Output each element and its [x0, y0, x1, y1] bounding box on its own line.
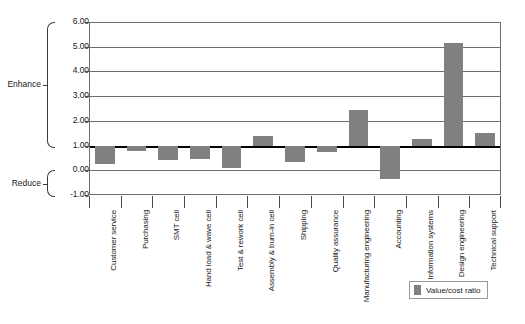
bar: [317, 146, 337, 152]
bar: [95, 146, 115, 165]
bar: [475, 133, 495, 145]
x-axis-tick-mark: [500, 196, 501, 208]
x-axis-tick-mark: [343, 196, 344, 208]
brace-label: Enhance: [0, 79, 41, 89]
x-axis-label: Purchasing: [141, 210, 150, 249]
brace-nub: [43, 85, 48, 86]
x-axis-label: Quality assurance: [331, 210, 340, 272]
axis-brace: [47, 170, 55, 197]
x-axis-label: Shipping: [299, 210, 308, 240]
x-axis-label: Information systems: [426, 210, 435, 280]
x-axis-tick-mark: [152, 196, 153, 208]
bar: [285, 146, 305, 162]
x-axis-tick-mark: [438, 196, 439, 208]
y-axis: 6.005.004.003.002.001.000.00-1.00 Enhanc…: [38, 22, 89, 195]
x-axis-tick-mark: [406, 196, 407, 208]
axis-brace: [47, 22, 55, 148]
x-axis-tick-mark: [374, 196, 375, 208]
x-axis-tick-mark: [279, 196, 280, 208]
x-axis-label: Manufacturing engineering: [362, 210, 371, 302]
x-axis-label: Test & rework cell: [236, 210, 245, 271]
bar: [253, 136, 273, 146]
bar: [222, 146, 242, 168]
x-axis-tick-mark: [89, 196, 90, 208]
bar: [412, 139, 432, 145]
x-axis-label: SMT cell: [172, 210, 181, 240]
x-axis-tick-mark: [216, 196, 217, 208]
x-axis-label: Accounting: [394, 210, 403, 249]
value-cost-ratio-bar-chart: 6.005.004.003.002.001.000.00-1.00 Enhanc…: [0, 0, 525, 324]
x-axis-label: Design engineering: [457, 210, 466, 277]
x-axis-label: Hand load & wave cell: [204, 210, 213, 287]
brace-label: Reduce: [0, 178, 41, 188]
bar: [349, 110, 369, 146]
chart-legend: Value/cost ratio: [409, 281, 488, 299]
brace-nub: [43, 184, 48, 185]
bar: [380, 146, 400, 179]
legend-swatch-icon: [414, 285, 421, 295]
legend-label: Value/cost ratio: [426, 286, 481, 295]
bar: [127, 146, 147, 151]
x-axis-label: Assembly & burn-in cell: [267, 210, 276, 291]
bar: [190, 146, 210, 160]
bars-layer: [89, 22, 501, 195]
x-axis-label: Customer service: [109, 210, 118, 271]
x-axis-label: Technical support: [489, 210, 498, 271]
bar: [444, 43, 464, 146]
x-axis-tick-mark: [184, 196, 185, 208]
x-axis-tick-mark: [247, 196, 248, 208]
bar: [158, 146, 178, 160]
x-axis-tick-mark: [121, 196, 122, 208]
x-axis-tick-mark: [311, 196, 312, 208]
x-axis-tick-mark: [469, 196, 470, 208]
